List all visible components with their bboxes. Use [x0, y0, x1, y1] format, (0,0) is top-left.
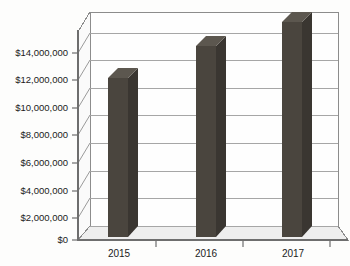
y-tick-labels: $14,000,000 $12,000,000 $10,000,000 $8,0…	[15, 47, 68, 245]
bar-2015[interactable]	[108, 68, 138, 237]
y-tick-label: $2,000,000	[20, 212, 68, 223]
x-tick-label-2015: 2015	[108, 248, 131, 259]
bar-2017[interactable]	[282, 12, 312, 237]
bar-front-face	[196, 46, 216, 237]
x-tick-labels: 2015 2016 2017	[108, 248, 305, 259]
bar-side-face	[128, 68, 138, 237]
bar-front-face	[108, 78, 128, 237]
y-tick-label: $14,000,000	[15, 47, 68, 58]
x-tick-label-2017: 2017	[282, 248, 305, 259]
y-tick-label: $6,000,000	[20, 157, 68, 168]
left-side-wall	[78, 12, 90, 240]
bar-chart: $14,000,000 $12,000,000 $10,000,000 $8,0…	[0, 0, 350, 266]
y-tick-label: $4,000,000	[20, 185, 68, 196]
bar-side-face	[302, 12, 312, 237]
x-tick-label-2016: 2016	[195, 248, 218, 259]
bar-2016[interactable]	[196, 36, 226, 237]
x-axis	[78, 240, 348, 247]
y-tick-label: $8,000,000	[20, 129, 68, 140]
y-tick-label: $10,000,000	[15, 102, 68, 113]
chart-container: $14,000,000 $12,000,000 $10,000,000 $8,0…	[0, 0, 350, 266]
bar-side-face	[216, 36, 226, 237]
bar-front-face	[282, 22, 302, 237]
y-tick-label: $0	[57, 234, 68, 245]
y-tick-label: $12,000,000	[15, 74, 68, 85]
